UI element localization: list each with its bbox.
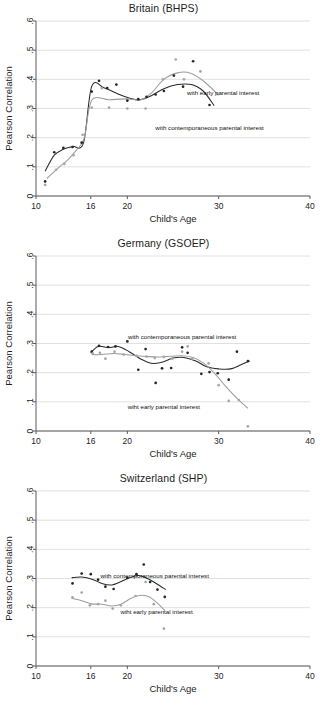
panel-switzerland: Switzerland (SHP) 0.1.2.3.4.5.6101620304…	[0, 470, 327, 705]
y-tick-label: .3	[25, 340, 35, 347]
data-point	[90, 90, 93, 93]
data-point	[200, 372, 203, 375]
data-point	[126, 99, 129, 102]
data-point	[181, 350, 184, 353]
data-point	[100, 87, 103, 90]
data-point	[55, 168, 58, 171]
y-tick-label: .5	[25, 46, 35, 53]
data-point	[154, 382, 157, 385]
data-point	[104, 585, 107, 588]
y-axis-title: Pearson Correlation	[3, 536, 14, 621]
data-point	[163, 356, 166, 359]
y-axis-title: Pearson Correlation	[3, 301, 14, 386]
data-point	[199, 70, 202, 73]
data-point	[192, 60, 195, 63]
data-point	[108, 106, 111, 109]
series-annotation: wiht early parental interest	[119, 608, 193, 615]
series-smooth-line	[91, 346, 250, 369]
data-point	[137, 98, 140, 101]
data-point	[163, 90, 166, 93]
data-point	[44, 180, 47, 183]
y-tick-label: .6	[25, 252, 35, 259]
data-point	[104, 599, 107, 602]
data-point	[237, 399, 240, 402]
x-tick-label: 16	[86, 201, 96, 211]
data-point	[182, 85, 185, 88]
data-point	[111, 607, 114, 610]
data-point	[53, 151, 56, 154]
data-point	[144, 107, 147, 110]
x-tick-label: 40	[305, 436, 315, 446]
data-point	[183, 78, 186, 81]
data-point	[97, 603, 100, 606]
y-tick-label: .5	[25, 281, 35, 288]
data-point	[72, 154, 75, 157]
x-axis-title: Child's Age	[149, 683, 196, 694]
chart-svg-britain: 0.1.2.3.4.5.61016203040Pearson Correlati…	[0, 0, 327, 235]
data-point	[71, 582, 74, 585]
data-point	[174, 58, 177, 61]
x-tick-label: 40	[305, 201, 315, 211]
data-point	[115, 83, 118, 86]
data-point	[208, 371, 211, 374]
data-point	[171, 357, 174, 360]
y-tick-label: .4	[25, 76, 35, 83]
series-annotation: wiht early parental interest	[127, 403, 201, 410]
panel-britain: Britain (BHPS) 0.1.2.3.4.5.61016203040Pe…	[0, 0, 327, 235]
y-tick-label: .4	[25, 546, 35, 553]
x-tick-label: 30	[214, 201, 224, 211]
series-smooth-line	[92, 353, 248, 408]
data-point	[134, 595, 137, 598]
data-point	[236, 350, 239, 353]
data-point	[163, 627, 166, 630]
data-point	[114, 345, 117, 348]
series-annotation: with early parental interest	[186, 89, 260, 96]
data-point	[208, 104, 211, 107]
data-point	[107, 346, 110, 349]
data-point	[98, 344, 101, 347]
data-point	[113, 350, 116, 353]
data-point	[80, 572, 83, 575]
data-point	[227, 378, 230, 381]
data-point	[181, 346, 184, 349]
data-point	[163, 596, 166, 599]
data-point	[216, 372, 219, 375]
data-point	[91, 352, 94, 355]
data-point	[207, 362, 210, 365]
data-point	[71, 596, 74, 599]
x-tick-label: 10	[31, 671, 41, 681]
data-point	[173, 74, 176, 77]
data-point	[191, 357, 194, 360]
data-point	[162, 78, 165, 81]
x-tick-label: 40	[305, 671, 315, 681]
data-point	[170, 367, 173, 370]
data-point	[120, 604, 123, 607]
data-point	[135, 354, 138, 357]
data-point	[63, 163, 66, 166]
data-point	[152, 603, 155, 606]
series-annotation: with contemporaneous parental interest	[154, 124, 264, 131]
data-point	[186, 351, 189, 354]
x-tick-label: 20	[123, 671, 133, 681]
data-point	[144, 348, 147, 351]
y-tick-label: .1	[25, 633, 35, 640]
data-point	[126, 107, 129, 110]
data-point	[227, 400, 230, 403]
panel-germany: Germany (GSOEP) 0.1.2.3.4.5.61016203040P…	[0, 235, 327, 470]
data-point	[80, 591, 83, 594]
y-tick-label: .3	[25, 105, 35, 112]
data-point	[112, 588, 115, 591]
y-tick-label: 0	[25, 663, 35, 668]
data-point	[98, 79, 101, 82]
data-point	[122, 353, 125, 356]
plot-area-switzerland: 0.1.2.3.4.5.61016203040Pearson Correlati…	[0, 470, 327, 705]
data-point	[89, 604, 92, 607]
data-point	[247, 360, 250, 363]
figure-panels: Britain (BHPS) 0.1.2.3.4.5.61016203040Pe…	[0, 0, 327, 705]
plot-area-germany: 0.1.2.3.4.5.61016203040Pearson Correlati…	[0, 235, 327, 470]
data-point	[62, 147, 65, 150]
series-annotation: with contemporaneous parental interest	[127, 333, 237, 340]
x-tick-label: 16	[86, 436, 96, 446]
x-tick-label: 20	[123, 201, 133, 211]
y-tick-label: .1	[25, 163, 35, 170]
